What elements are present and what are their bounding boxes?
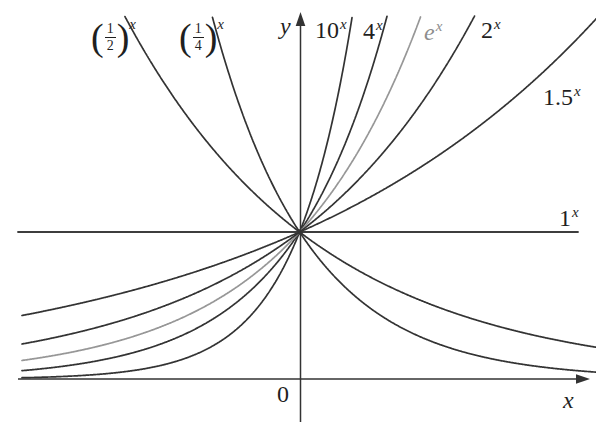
label-half-pow-x: ( 1 2 ) x: [91, 20, 136, 54]
fraction-numerator: 1: [105, 21, 116, 37]
base: 1.5: [543, 84, 573, 110]
base: 1: [559, 205, 571, 231]
paren-close: ): [117, 22, 130, 52]
curves-svg: [0, 0, 596, 438]
x-axis-label: x: [563, 388, 574, 412]
fraction-numerator: 1: [193, 21, 204, 37]
label-quarter-pow-x: ( 1 4 ) x: [179, 20, 224, 54]
fraction-denominator: 2: [105, 38, 116, 53]
paren-close: ): [205, 22, 218, 52]
base: 4: [363, 18, 375, 44]
exponent-x: x: [340, 16, 347, 32]
label-one-pow-x: 1x: [559, 205, 579, 230]
exponent-x: x: [376, 17, 383, 33]
label-e-pow-x: ex: [424, 19, 442, 44]
curve-10^x: [22, 18, 352, 378]
curve-1.5^x: [22, 19, 596, 316]
paren-open: (: [91, 22, 104, 52]
x-axis-arrow-icon: [576, 374, 590, 384]
exponent-x: x: [494, 16, 501, 32]
curve-e^x: [22, 17, 421, 361]
base: 10: [315, 17, 339, 43]
curve-4^x: [22, 16, 387, 370]
exponent-x: x: [129, 16, 136, 33]
paren-open: (: [179, 22, 192, 52]
base: e: [424, 19, 435, 45]
label-one-point-five-pow-x: 1.5x: [543, 84, 581, 109]
exponent-x: x: [217, 16, 224, 33]
base: 2: [481, 17, 493, 43]
fraction-quarter: 1 4: [193, 21, 204, 53]
label-four-pow-x: 4x: [363, 18, 383, 43]
label-ten-pow-x: 10x: [315, 17, 347, 42]
curve-group: [18, 16, 596, 378]
y-axis-label: y: [280, 14, 291, 38]
exponent-x: x: [436, 18, 443, 34]
fraction-half: 1 2: [105, 21, 116, 53]
fraction-denominator: 4: [193, 38, 204, 53]
label-two-pow-x: 2x: [481, 17, 501, 42]
common-point: [297, 229, 302, 234]
y-axis-arrow-icon: [296, 12, 306, 26]
figure: ( 1 2 ) x ( 1 4 ) x y 10x 4x ex 2x 1.5x: [0, 0, 596, 438]
curve-(1/4)^x: [213, 17, 596, 372]
exponent-x: x: [572, 204, 579, 220]
exponent-x: x: [574, 83, 581, 99]
origin-label: 0: [277, 382, 289, 406]
curve-(1/2)^x: [125, 17, 596, 348]
